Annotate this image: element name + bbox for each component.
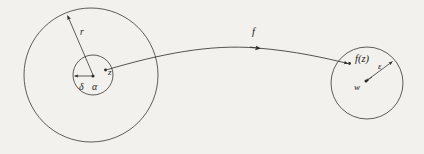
radius-r-label: r	[80, 28, 84, 38]
mapping-curve	[106, 47, 257, 70]
diagram-svg	[0, 0, 424, 154]
alpha-point	[92, 75, 95, 78]
z-label: z	[108, 68, 112, 77]
r-radius-arrow	[68, 16, 94, 76]
alpha-label: α	[92, 82, 97, 92]
epsilon-radius-tail-arrow	[365, 77, 372, 82]
outer-r-circle	[24, 8, 158, 142]
figure-canvas: r δ α z f f(z) w ε	[0, 0, 424, 154]
radius-delta-label: δ	[79, 82, 84, 92]
radius-epsilon-label: ε	[378, 62, 382, 71]
mapping-curve-tail	[257, 48, 348, 64]
w-label: w	[354, 83, 360, 92]
fz-point	[348, 62, 351, 65]
fz-label: f(z)	[355, 54, 369, 65]
mapping-f-label: f	[252, 27, 255, 38]
